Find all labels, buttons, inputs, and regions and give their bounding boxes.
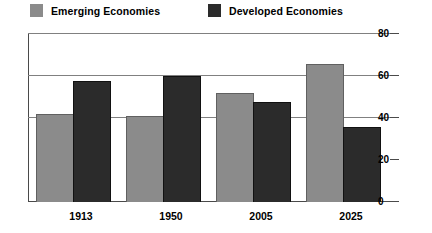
x-axis-labels: 1913 1950 2005 2025 xyxy=(28,210,390,230)
x-label-1950: 1950 xyxy=(159,210,182,222)
y-tick-0 xyxy=(390,201,399,202)
y-tick-label-20: 20 xyxy=(378,154,389,165)
x-label-2005: 2005 xyxy=(249,210,272,222)
y-tick-label-60: 60 xyxy=(378,70,389,81)
y-tick-40 xyxy=(390,117,399,118)
y-tick-label-80: 80 xyxy=(378,28,389,39)
bar-emerging-1950[interactable] xyxy=(126,116,164,202)
bar-developed-1950[interactable] xyxy=(163,76,201,202)
legend-swatch-icon-developed xyxy=(208,4,221,17)
legend-item-developed-economies: Developed Economies xyxy=(208,4,343,17)
bar-developed-1913[interactable] xyxy=(73,81,111,202)
legend-label-developed: Developed Economies xyxy=(229,5,343,17)
bar-group-1950 xyxy=(126,33,206,202)
bar-group-2025 xyxy=(306,33,386,202)
legend-swatch-icon-emerging xyxy=(30,4,43,17)
x-label-2025: 2025 xyxy=(339,210,362,222)
bar-developed-2005[interactable] xyxy=(253,102,291,202)
legend-item-emerging-economies: Emerging Economies xyxy=(30,4,160,17)
y-tick-80 xyxy=(390,33,399,34)
y-tick-label-40: 40 xyxy=(378,112,389,123)
x-label-1913: 1913 xyxy=(69,210,92,222)
y-tick-20 xyxy=(390,159,399,160)
bar-group-1913 xyxy=(36,33,116,202)
bar-group-2005 xyxy=(216,33,296,202)
legend-label-emerging: Emerging Economies xyxy=(51,5,160,17)
y-tick-label-0: 0 xyxy=(378,196,384,207)
bars-layer xyxy=(28,33,390,202)
plot-area xyxy=(28,33,390,202)
chart-container: Emerging Economies Developed Economies xyxy=(0,0,432,233)
bar-developed-2025[interactable] xyxy=(343,127,381,202)
y-tick-60 xyxy=(390,75,399,76)
bar-emerging-1913[interactable] xyxy=(36,114,74,202)
bar-emerging-2025[interactable] xyxy=(306,64,344,202)
chart-legend: Emerging Economies Developed Economies xyxy=(0,0,432,26)
bar-emerging-2005[interactable] xyxy=(216,93,254,202)
